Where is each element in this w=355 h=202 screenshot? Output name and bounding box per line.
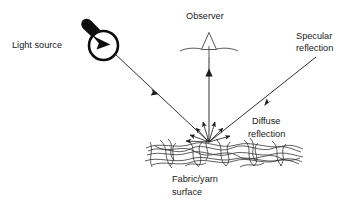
label-diffuse-reflection-line2: reflection <box>248 129 285 139</box>
observer-eye-icon <box>180 33 238 58</box>
label-specular-reflection-line2: reflection <box>296 43 333 53</box>
incident-light-ray <box>114 53 209 142</box>
label-specular-reflection-line1: Specular <box>296 31 332 41</box>
label-surface-line1: Fabric/yarn <box>172 174 218 184</box>
label-surface-line2: surface <box>172 187 202 197</box>
fabric-yarn-surface <box>145 138 303 168</box>
light-bulb-icon <box>82 20 118 60</box>
light-reflection-diagram: Light source Observer Specular reflectio… <box>0 0 355 202</box>
diagram-canvas: Light source Observer Specular reflectio… <box>0 0 355 202</box>
label-diffuse-reflection-line1: Diffuse <box>252 116 280 126</box>
label-observer: Observer <box>186 11 224 21</box>
label-light-source: Light source <box>12 40 62 50</box>
observer-view-ray <box>205 57 212 142</box>
diffuse-reflection-rays <box>186 122 230 142</box>
